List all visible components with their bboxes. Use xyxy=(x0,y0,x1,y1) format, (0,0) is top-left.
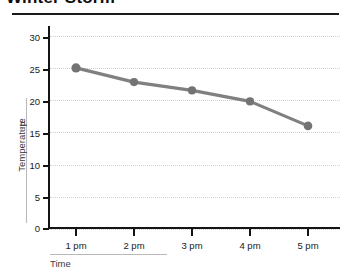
y-axis-label-25: 25 xyxy=(18,65,40,74)
x-tick-1pm xyxy=(75,229,77,236)
data-point-4pm xyxy=(246,97,254,105)
chart-page: { "title": "Winter Storm", "chart_data":… xyxy=(0,0,351,276)
y-tick-10 xyxy=(43,165,49,167)
y-tick-30 xyxy=(43,37,49,39)
x-axis-label-5pm: 5 pm xyxy=(286,240,330,251)
y-tick-0 xyxy=(43,228,49,230)
x-axis-title: Time xyxy=(50,258,71,269)
x-axis-title-divider xyxy=(50,254,167,255)
x-axis-label-2pm: 2 pm xyxy=(112,240,156,251)
data-point-1pm xyxy=(71,63,80,72)
x-tick-3pm xyxy=(191,229,193,236)
data-series xyxy=(50,26,340,231)
plot-area xyxy=(50,26,340,228)
x-axis-line xyxy=(48,227,340,229)
y-label-25-wrap: 25 xyxy=(14,65,40,75)
y-label-30-wrap: 30 xyxy=(14,33,40,43)
y-axis-label-30: 30 xyxy=(18,33,40,42)
x-tick-2pm xyxy=(133,229,135,236)
y-axis-unit: °F xyxy=(18,108,29,144)
data-point-2pm xyxy=(130,78,138,86)
x-axis-label-4pm: 4 pm xyxy=(228,240,272,251)
title-divider xyxy=(12,13,339,15)
x-tick-4pm xyxy=(249,229,251,236)
y-axis-label-0: 0 xyxy=(18,224,40,233)
y-tick-5 xyxy=(43,197,49,199)
chart-title-clip: Winter Storm xyxy=(0,0,351,7)
series-line xyxy=(76,68,308,126)
x-axis-label-1pm: 1 pm xyxy=(54,240,98,251)
x-axis-label-3pm: 3 pm xyxy=(170,240,214,251)
data-point-3pm xyxy=(188,86,196,94)
y-tick-15 xyxy=(43,133,49,135)
y-label-0-wrap: 0 xyxy=(14,224,40,234)
x-tick-5pm xyxy=(307,229,309,236)
y-tick-20 xyxy=(43,101,49,103)
y-axis-title: Temperature xyxy=(17,87,27,203)
data-point-5pm xyxy=(304,122,313,131)
page-title: Winter Storm xyxy=(6,0,115,7)
y-tick-25 xyxy=(43,69,49,71)
